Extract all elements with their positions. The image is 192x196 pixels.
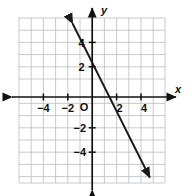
origin-label: O: [80, 101, 89, 113]
x-tick-label-neg4: −4: [37, 102, 50, 114]
x-tick-label-pos2: 2: [116, 102, 122, 114]
y-axis-label: y: [100, 4, 108, 16]
y-tick-label-neg4: −4: [73, 146, 86, 158]
x-tick-label-pos4: 4: [141, 102, 148, 114]
y-tick-label-pos4: 4: [78, 37, 85, 49]
graph-canvas: −4 −2 2 4 4 2 −2 −4 O x y: [0, 0, 192, 196]
x-tick-label-neg2: −2: [62, 102, 75, 114]
coordinate-graph: −4 −2 2 4 4 2 −2 −4 O x y: [0, 0, 192, 196]
x-axis-label: x: [174, 83, 182, 95]
y-tick-label-pos2: 2: [78, 61, 84, 73]
y-tick-label-neg2: −2: [73, 122, 86, 134]
